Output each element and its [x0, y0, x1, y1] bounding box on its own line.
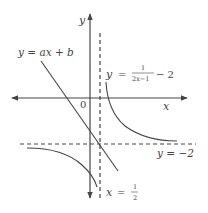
vertical-asymptote-label: x = 1 2 [106, 183, 138, 202]
hyperbola-lower-branch [27, 148, 97, 187]
svg-text:=: = [117, 187, 125, 198]
svg-text:− 2: − 2 [156, 69, 174, 80]
hyperbola-equation-label: y = 1 2x−1 − 2 [105, 64, 174, 83]
svg-text:1: 1 [141, 64, 145, 72]
svg-text:x: x [106, 186, 113, 199]
y-axis-label: y [78, 14, 86, 27]
svg-text:=: = [118, 69, 126, 80]
x-axis-label: x [163, 100, 170, 113]
horizontal-asymptote-label: y = −2 [156, 147, 194, 159]
origin-label: 0 [80, 99, 86, 110]
line-equation-label: y = ax + b [17, 46, 74, 58]
svg-text:1: 1 [133, 183, 137, 191]
svg-text:y: y [105, 68, 113, 81]
svg-text:2x−1: 2x−1 [132, 75, 149, 83]
svg-text:2: 2 [133, 194, 137, 202]
function-graph: y x 0 y = ax + b y = 1 2x−1 − 2 y = −2 x… [0, 0, 208, 213]
